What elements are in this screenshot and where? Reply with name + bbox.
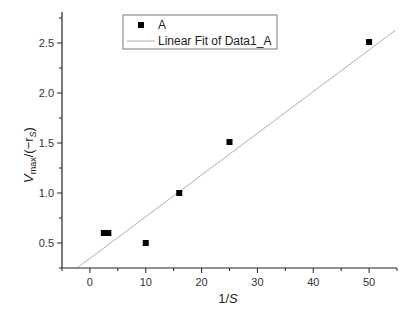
data-point-square-icon xyxy=(366,39,372,45)
data-point-square-icon xyxy=(227,139,233,145)
chart-canvas: 010203040500.51.01.52.02.5 Vmax/(−rS) 1/… xyxy=(0,0,414,319)
x-tick-label: 40 xyxy=(307,276,319,288)
svg-text:1/S: 1/S xyxy=(218,291,238,306)
axes: 010203040500.51.01.52.02.5 xyxy=(39,12,397,288)
y-tick-label: 2.0 xyxy=(39,87,54,99)
x-tick-label: 10 xyxy=(140,276,152,288)
data-point-square-icon xyxy=(143,240,149,246)
x-tick-label: 50 xyxy=(363,276,375,288)
plot-area xyxy=(77,30,395,268)
data-point-square-icon xyxy=(105,230,111,236)
legend: A Linear Fit of Data1_A xyxy=(123,15,277,49)
x-tick-label: 30 xyxy=(251,276,263,288)
data-point-square-icon xyxy=(176,190,182,196)
y-tick-label: 0.5 xyxy=(39,237,54,249)
y-tick-label: 1.0 xyxy=(39,187,54,199)
legend-label-fit: Linear Fit of Data1_A xyxy=(158,34,271,48)
y-axis-title: Vmax/(−rS) xyxy=(21,127,38,183)
linear-fit-line xyxy=(77,30,395,268)
y-tick-label: 2.5 xyxy=(39,37,54,49)
y-tick-label: 1.5 xyxy=(39,137,54,149)
legend-marker-square-icon xyxy=(138,22,144,28)
svg-text:Vmax/(−rS): Vmax/(−rS) xyxy=(21,127,38,183)
x-axis-title: 1/S xyxy=(218,291,238,306)
x-tick-label: 20 xyxy=(195,276,207,288)
legend-label-a: A xyxy=(158,18,166,32)
x-tick-label: 0 xyxy=(87,276,93,288)
